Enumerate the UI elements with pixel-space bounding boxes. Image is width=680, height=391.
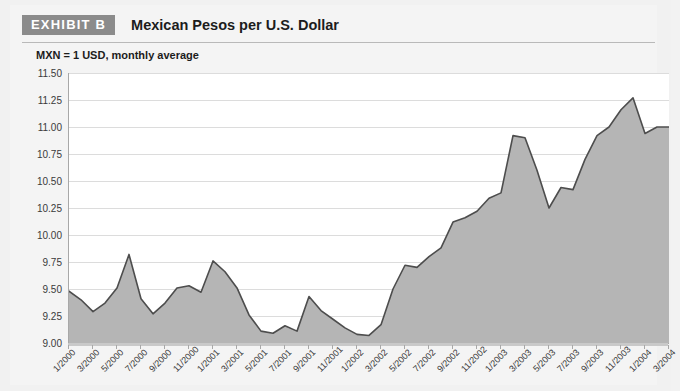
header-divider [22,42,655,43]
y-axis-tick-label: 10.50 [16,176,62,187]
y-axis-tick-label: 10.00 [16,230,62,241]
x-axis-tick-label: 7/2000 [123,347,150,374]
y-axis-tick-label: 11.50 [16,68,62,79]
x-axis-tick-label: 11/2002 [459,344,489,374]
area-chart-series [69,73,669,343]
x-axis-tick-label: 3/2003 [507,347,534,374]
x-axis-tick-label: 7/2003 [555,347,582,374]
x-axis-tick-label: 11/2000 [171,344,201,374]
y-axis-tick-label: 9.50 [16,284,62,295]
x-axis-tick-label: 5/2000 [99,347,126,374]
x-axis-tick-label: 5/2002 [387,347,414,374]
x-axis-tick-label: 11/2003 [603,344,633,374]
exhibit-figure-card: EXHIBIT B Mexican Pesos per U.S. Dollar … [10,5,657,385]
x-axis-tick-label: 5/2003 [531,347,558,374]
y-axis-tick-label: 11.25 [16,95,62,106]
x-axis-tick-label: 9/2003 [579,347,606,374]
x-axis-tick-label: 3/2001 [219,347,246,374]
y-axis-labels: 11.5011.2511.0010.7510.5010.2510.009.759… [10,73,62,343]
chart-container: 11.5011.2511.0010.7510.5010.2510.009.759… [10,65,680,391]
x-axis-tick-label: 3/2004 [651,347,678,374]
chart-subtitle: MXN = 1 USD, monthly average [36,49,199,61]
y-axis-tick-label: 10.25 [16,203,62,214]
x-axis-tick-label: 5/2001 [243,347,270,374]
x-axis-tick-label: 9/2002 [435,347,462,374]
x-axis-tick-label: 9/2000 [147,347,174,374]
y-axis-tick-label: 9.75 [16,257,62,268]
exhibit-header: EXHIBIT B Mexican Pesos per U.S. Dollar [22,14,339,36]
x-axis-tick-label: 9/2001 [291,347,318,374]
x-axis-tick-label: 7/2001 [267,347,294,374]
plot-area [68,73,669,343]
x-axis-tick-label: 1/2000 [51,347,78,374]
x-axis-tick-label: 7/2002 [411,347,438,374]
page-title: Mexican Pesos per U.S. Dollar [131,17,339,33]
y-axis-tick-label: 9.25 [16,311,62,322]
y-axis-tick-label: 11.00 [16,122,62,133]
x-axis-labels: 1/20003/20005/20007/20009/200011/20001/2… [68,345,668,391]
y-axis-tick-label: 10.75 [16,149,62,160]
x-axis-tick-label: 3/2000 [75,347,102,374]
x-axis-tick-label: 11/2001 [315,344,345,374]
x-axis-tick-label: 3/2002 [363,347,390,374]
exhibit-badge: EXHIBIT B [22,15,115,35]
y-axis-tick-label: 9.00 [16,338,62,349]
